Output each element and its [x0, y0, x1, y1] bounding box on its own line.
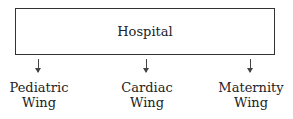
cardiac-wing-node: Cardiac Wing — [102, 80, 192, 110]
arrow-down-icon — [250, 59, 251, 72]
hospital-node: Hospital — [15, 8, 275, 55]
arrow-down-icon — [38, 59, 39, 72]
node-label-line2: Wing — [0, 95, 84, 110]
hospital-label: Hospital — [117, 24, 172, 39]
pediatric-wing-node: Pediatric Wing — [0, 80, 84, 110]
node-label-line1: Maternity — [206, 80, 293, 95]
node-label-line2: Wing — [102, 95, 192, 110]
maternity-wing-node: Maternity Wing — [206, 80, 293, 110]
node-label-line2: Wing — [206, 95, 293, 110]
node-label-line1: Cardiac — [102, 80, 192, 95]
arrow-down-icon — [146, 59, 147, 72]
node-label-line1: Pediatric — [0, 80, 84, 95]
